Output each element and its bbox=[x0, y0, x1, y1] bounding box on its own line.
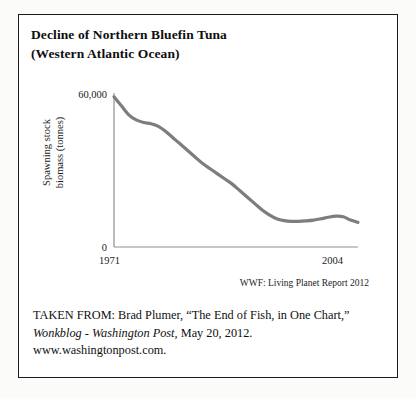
credit-block: TAKEN FROM: Brad Plumer, “The End of Fis… bbox=[33, 307, 383, 360]
credit-line-3: www.washingtonpost.com. bbox=[33, 342, 383, 360]
chart-plot-area: 60,000 0 1971 2004 Spawning stock biomas… bbox=[19, 15, 399, 275]
x-axis-tick-label-end: 2004 bbox=[322, 255, 343, 266]
line-chart-svg bbox=[19, 15, 399, 275]
credit-line-2: Wonkblog - Washington Post, May 20, 2012… bbox=[33, 325, 383, 343]
y-axis-tick-label-zero: 0 bbox=[49, 242, 107, 253]
credit-publication: Wonkblog - Washington Post bbox=[33, 326, 175, 340]
y-axis-title-line-1: Spawning stock bbox=[41, 88, 54, 218]
x-axis-tick-label-start: 1971 bbox=[99, 255, 120, 266]
credit-line-1: TAKEN FROM: Brad Plumer, “The End of Fis… bbox=[33, 307, 383, 325]
chart-source-attribution: WWF: Living Planet Report 2012 bbox=[31, 278, 369, 288]
y-axis-title-line-2: biomass (tonnes) bbox=[53, 88, 66, 218]
y-axis-title: Spawning stock biomass (tonnes) bbox=[41, 88, 66, 218]
page-background: Decline of Northern Bluefin Tuna (Wester… bbox=[0, 0, 416, 398]
series-line-spawning-stock-biomass bbox=[114, 97, 358, 223]
figure-card: Decline of Northern Bluefin Tuna (Wester… bbox=[18, 14, 398, 378]
credit-date: , May 20, 2012. bbox=[175, 326, 253, 340]
